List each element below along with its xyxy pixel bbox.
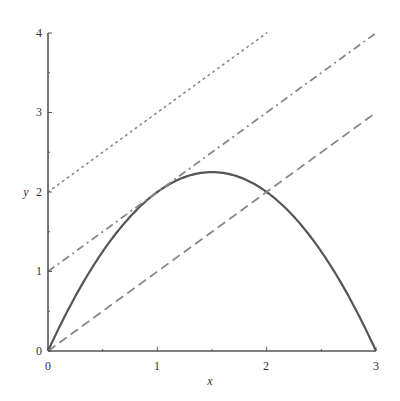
series-line-solid bbox=[48, 172, 376, 351]
plot-lines bbox=[48, 33, 376, 351]
series-line-dotted bbox=[48, 33, 267, 192]
series-line-dashed bbox=[48, 113, 376, 352]
tick-labels: 0 1 2 3 0 1 2 3 4 bbox=[36, 26, 379, 373]
x-tick-label-2: 2 bbox=[263, 359, 269, 373]
x-tick-label-3: 3 bbox=[373, 359, 379, 373]
x-tick-label-0: 0 bbox=[45, 359, 51, 373]
y-tick-label-1: 1 bbox=[36, 264, 42, 278]
axes bbox=[48, 33, 376, 351]
x-axis-label: x bbox=[206, 374, 213, 388]
y-tick-label-3: 3 bbox=[36, 105, 42, 119]
y-tick-label-4: 4 bbox=[36, 26, 42, 40]
series-line-dash-dot bbox=[48, 33, 376, 272]
y-tick-label-2: 2 bbox=[36, 185, 42, 199]
y-tick-label-0: 0 bbox=[36, 344, 42, 358]
chart: 0 1 2 3 0 1 2 3 4 x y bbox=[0, 0, 400, 401]
ticks bbox=[48, 33, 376, 351]
y-axis-label: y bbox=[22, 185, 29, 199]
x-tick-label-1: 1 bbox=[154, 359, 160, 373]
